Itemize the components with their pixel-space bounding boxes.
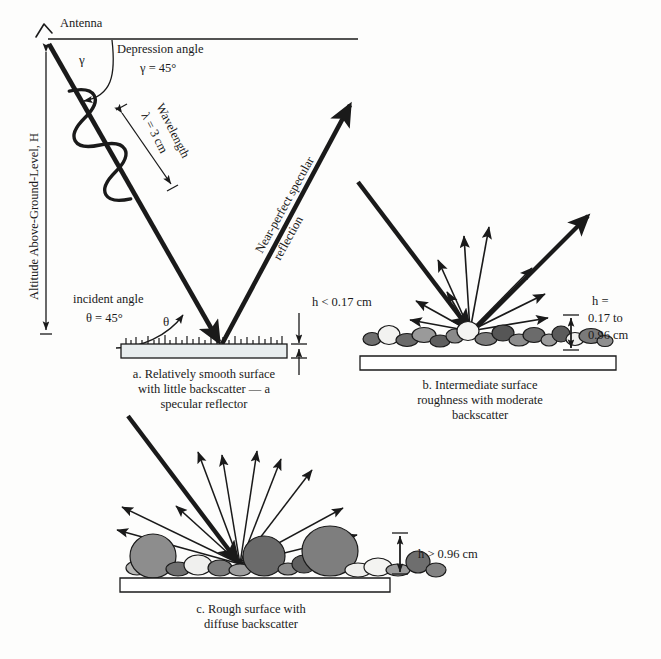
boulder	[426, 563, 446, 577]
caption-a-line2: with little backscatter — a	[138, 382, 270, 396]
boulder	[184, 555, 212, 575]
caption-b-line2: roughness with moderate	[417, 393, 543, 407]
smooth-surface-texture-ticks	[126, 335, 282, 344]
depression-angle-label: Depression angle	[117, 42, 204, 56]
altitude-label: Altitude Above-Ground-Level, H	[27, 133, 41, 300]
caption-c-line2: diffuse backscatter	[204, 617, 299, 631]
incident-ray-b	[358, 182, 470, 330]
h-label-b-line2: 0.17 to	[588, 311, 623, 325]
pebble-bed-b	[363, 322, 613, 348]
diagram-canvas: Antenna Altitude Above-Ground-Level, H γ…	[0, 0, 661, 659]
h-label-a-line1: h < 0.17 cm	[312, 295, 372, 309]
wavelength-tick-bottom	[167, 185, 178, 191]
caption-a-line3: specular reflector	[160, 397, 248, 411]
h-label-b-line1: h =	[592, 294, 608, 308]
radar-roughness-diagram: Antenna Altitude Above-Ground-Level, H γ…	[0, 0, 661, 659]
rough-surface-slab	[120, 578, 390, 592]
h-label-c-line1: h > 0.96 cm	[418, 547, 478, 561]
caption-c-line1: c. Rough surface with	[196, 602, 306, 616]
gamma-symbol: γ	[78, 52, 85, 67]
h-label-b-line3: 0.96 cm	[588, 328, 629, 342]
smooth-surface-slab	[121, 344, 287, 358]
caption-b-line1: b. Intermediate surface	[423, 378, 538, 392]
incident-angle-value: θ = 45°	[86, 311, 123, 325]
incident-angle-label: incident angle	[73, 292, 144, 306]
depression-angle-value: γ = 45°	[139, 61, 176, 75]
boulder	[208, 560, 232, 576]
caption-a-line1: a. Relatively smooth surface	[133, 367, 276, 381]
antenna-icon	[36, 24, 52, 37]
antenna-label: Antenna	[60, 16, 103, 30]
intermediate-surface-slab	[360, 356, 616, 370]
caption-b-line3: backscatter	[452, 408, 509, 422]
theta-symbol: θ	[163, 314, 169, 329]
wavelength-tick-top	[116, 104, 127, 110]
